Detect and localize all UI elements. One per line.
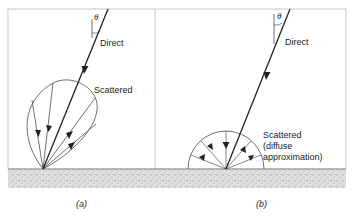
direct-label-b: Direct <box>285 37 309 47</box>
scatter-lobe-a <box>27 80 97 169</box>
scattered-label-b-line3: approximation) <box>263 152 323 162</box>
scatter-ray <box>191 155 226 169</box>
scatter-arrow <box>68 142 75 150</box>
scattered-label-b-line2: (diffuse <box>263 141 292 151</box>
direct-label-a: Direct <box>100 38 124 48</box>
direct-arrow-b <box>264 72 271 80</box>
caption-b: (b) <box>256 199 267 209</box>
scatter-arrow <box>223 142 230 149</box>
scattered-label-a: Scattered <box>94 85 133 95</box>
scatter-arrow <box>66 131 73 139</box>
caption-a: (a) <box>76 199 87 209</box>
theta-label-b: θ <box>277 11 282 21</box>
scatter-arrow <box>46 125 52 132</box>
scatter-ray <box>226 141 251 169</box>
scattered-label-b-line1: Scattered <box>263 130 302 140</box>
frame <box>8 9 346 169</box>
theta-label-a: θ <box>94 12 99 22</box>
scatter-arrow <box>199 154 205 161</box>
scatter-arrow <box>35 130 41 137</box>
diagram-canvas: θ Direct Scattered (a) θ Direct <box>0 0 355 216</box>
angle-arc-b <box>274 23 282 25</box>
ground-surface <box>8 169 346 188</box>
